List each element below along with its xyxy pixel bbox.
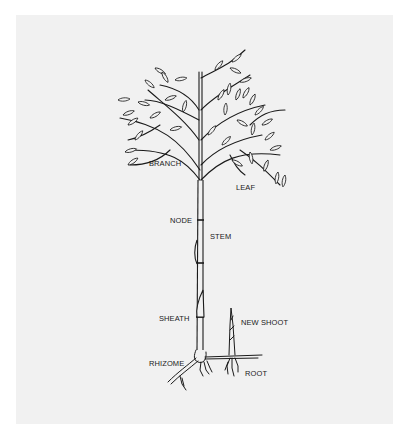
label-leaf: LEAF [236,184,255,192]
label-stem: STEM [210,233,231,241]
label-node: NODE [170,217,192,225]
label-root: ROOT [245,370,267,378]
label-branch: BRANCH [149,160,181,168]
label-new-shoot: NEW SHOOT [241,319,288,327]
label-sheath: SHEATH [159,315,189,323]
canopy-branches [120,50,285,185]
label-rhizome: RHIZOME [149,360,184,368]
bamboo-plant-illustration [0,0,407,439]
stem-and-nodes [195,180,204,350]
